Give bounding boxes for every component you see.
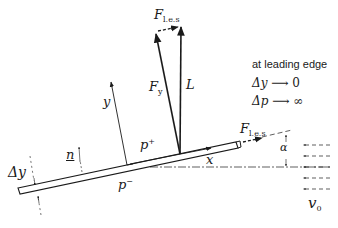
y-axis-label: y [103,95,110,108]
fy-label: Fy [149,80,163,96]
fles-leading-edge-label: Fl.e.s [240,122,266,138]
note-title: at leading edge [252,59,327,70]
delta-y-label: Δy [8,165,26,179]
lift-arrow [180,27,181,154]
fles-top-label: Fl.e.s [154,8,180,24]
v0-label: v0 [308,196,322,213]
p-minus-label: p− [118,178,133,191]
p-plus-label: p+ [140,138,155,151]
note-line-delta-p: Δp ⟶ ∞ [252,95,303,107]
lift-label: L [186,78,195,91]
note-line-delta-y: Δy ⟶ 0 [252,77,300,89]
fles-top-arrow [158,27,178,31]
alpha-label: α [280,142,287,153]
chord-extension-line [262,130,292,137]
y-axis-arrow [111,82,127,165]
normal-label: n [66,148,74,161]
diagram-graphics [0,0,338,228]
normal-marker [79,147,82,172]
fles-leading-edge-arrow [243,138,262,142]
flat-plate-diagram: Fl.e.s Fy L y x n p+ p− Δy Fl.e.s α v0 a… [0,0,338,228]
x-axis-label: x [206,153,213,166]
